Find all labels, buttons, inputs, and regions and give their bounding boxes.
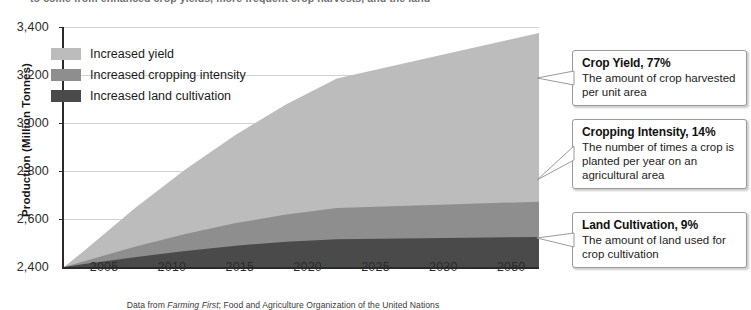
x-tick-label: 2030 [429,260,458,274]
y-tick-label: 3,200 [1,68,49,82]
y-tick-label: 3,400 [1,20,49,34]
legend-swatch [51,69,81,81]
legend-item: Increased cropping intensity [51,65,246,84]
callout-box: Crop Yield, 77%The amount of crop harves… [572,50,747,106]
source-caption: Data from Farming First; Food and Agricu… [0,300,566,310]
caption-prefix: Data from [127,300,168,310]
chart-legend: Increased yieldIncreased cropping intens… [51,44,246,107]
y-axis-tick-labels: 3,4003,2003,0002,8002,6002,400 [1,14,49,267]
legend-label: Increased yield [90,47,174,61]
legend-item: Increased land cultivation [51,86,246,105]
truncated-body-text-label: to come from enhanced crop yields, more … [30,0,430,4]
callout-title: Cropping Intensity, 14% [582,125,738,139]
callout-box: Land Cultivation, 9%The amount of land u… [572,212,747,268]
legend-label: Increased land cultivation [90,89,231,103]
x-tick-label: 2010 [158,260,187,274]
callout-body: The amount of land used for crop cultiva… [582,233,738,261]
legend-swatch [51,90,81,102]
y-tick-label: 2,800 [1,164,49,178]
x-tick-label: 2015 [225,260,254,274]
callout-pointer [537,0,574,306]
x-tick-label: 2025 [361,260,390,274]
x-tick-label: 2020 [293,260,322,274]
legend-item: Increased yield [51,44,246,63]
stacked-area-chart: Production (Million Tonnes) 3,4003,2003,… [0,14,566,286]
y-tick-label: 3,000 [1,116,49,130]
legend-swatch [51,48,81,60]
truncated-body-text: to come from enhanced crop yields, more … [0,0,751,11]
y-tick-label: 2,400 [1,260,49,274]
callout-title: Land Cultivation, 9% [582,218,738,232]
caption-suffix: ; Food and Agriculture Organization of t… [219,300,440,310]
callout-title: Crop Yield, 77% [582,56,738,70]
x-tick-label: 2005 [90,260,119,274]
x-tick-label: 2050 [497,260,526,274]
callout-body: The amount of crop harvested per unit ar… [582,71,738,99]
callout-box: Cropping Intensity, 14%The number of tim… [572,119,747,189]
caption-source-name: Farming First [167,300,218,310]
legend-label: Increased cropping intensity [90,68,246,82]
callout-body: The number of times a crop is planted pe… [582,140,738,182]
y-tick-label: 2,600 [1,212,49,226]
